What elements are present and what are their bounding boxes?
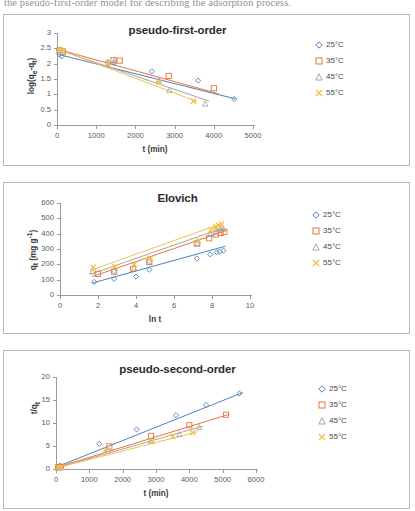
trendline-35°C (59, 50, 219, 94)
data-point (196, 78, 201, 83)
trendline-35°C (56, 414, 229, 467)
legend-label: 25°C (326, 40, 344, 49)
x-tick-label: 2000 (113, 131, 157, 140)
legend-label: 45°C (329, 416, 347, 425)
cross-marker-icon (318, 433, 327, 442)
data-point (133, 274, 138, 279)
legend-label: 25°C (329, 384, 347, 393)
x-tick-label: 4000 (192, 131, 236, 140)
data-point (194, 256, 199, 261)
x-axis-title: ln t (110, 315, 200, 324)
y-axis-title: qt (mg g-1) (26, 205, 39, 295)
square-marker-icon (318, 401, 327, 410)
legend-label: 45°C (326, 72, 344, 81)
x-tick-label: 1000 (74, 131, 118, 140)
data-point (166, 73, 171, 78)
legend-label: 55°C (329, 432, 347, 441)
x-tick-label: 6000 (234, 475, 278, 484)
data-point (211, 86, 216, 91)
x-tick-label: 10 (228, 301, 272, 310)
x-axis-title: t (min) (111, 489, 201, 498)
data-point (173, 413, 178, 418)
triangle-marker-icon (312, 243, 321, 252)
trendline-55°C (56, 432, 198, 468)
trendline-55°C (59, 49, 198, 101)
square-marker-icon (312, 227, 321, 236)
legend-label: 25°C (323, 210, 341, 219)
chart-title-pseudo-second-order: pseudo-second-order (0, 363, 409, 375)
chart-card-pseudo-second-order: pseudo-second-order 05101520010002000300… (3, 350, 410, 509)
trendline-25°C (56, 393, 243, 468)
chart-card-elovich: Elovich 01002003004005006000246810ln tqt… (3, 182, 410, 334)
data-layer (57, 33, 257, 127)
data-point (97, 441, 102, 446)
data-point (117, 58, 122, 63)
x-axis-title: t (min) (110, 145, 200, 154)
y-axis-title: log(qe-qt) (27, 31, 38, 121)
chart-card-pseudo-first-order: pseudo-first-order 00.511.522.5301000200… (3, 14, 410, 166)
diamond-marker-icon (312, 211, 321, 220)
y-axis-title: t/qt (30, 363, 41, 453)
legend-label: 45°C (323, 242, 341, 251)
trendline-55°C (90, 223, 223, 271)
data-point (208, 252, 213, 257)
x-tick-label: 0 (35, 131, 79, 140)
trendline-25°C (59, 54, 236, 98)
plot-area-elovich: 01002003004005006000246810ln tqt (mg g-1… (60, 203, 250, 295)
y-tick-label: 0 (13, 120, 51, 129)
trendline-45°C (90, 228, 224, 275)
legend-label: 35°C (326, 56, 344, 65)
plot-area-pseudo-first-order: 00.511.522.53010002000300040005000t (min… (57, 33, 253, 125)
y-tick-label: 0 (12, 464, 50, 473)
legend-label: 35°C (323, 226, 341, 235)
diamond-marker-icon (318, 385, 327, 394)
cross-marker-icon (312, 259, 321, 268)
data-point (149, 69, 154, 74)
cross-marker-icon (315, 89, 324, 98)
data-layer (56, 377, 260, 471)
x-tick-label: 3000 (153, 131, 197, 140)
data-point (134, 427, 139, 432)
diamond-marker-icon (315, 41, 324, 50)
triangle-marker-icon (315, 73, 324, 82)
x-tick-label: 5000 (231, 131, 275, 140)
data-layer (60, 203, 254, 297)
legend-label: 55°C (326, 88, 344, 97)
data-point (203, 101, 208, 106)
page-header-text: the pseudo-first-order model for describ… (4, 0, 411, 11)
legend-label: 35°C (329, 400, 347, 409)
trendline-45°C (56, 426, 203, 468)
triangle-marker-icon (318, 417, 327, 426)
square-marker-icon (315, 57, 324, 66)
plot-area-pseudo-second-order: 051015200100020003000400050006000t (min)… (56, 377, 256, 469)
legend-label: 55°C (323, 258, 341, 267)
